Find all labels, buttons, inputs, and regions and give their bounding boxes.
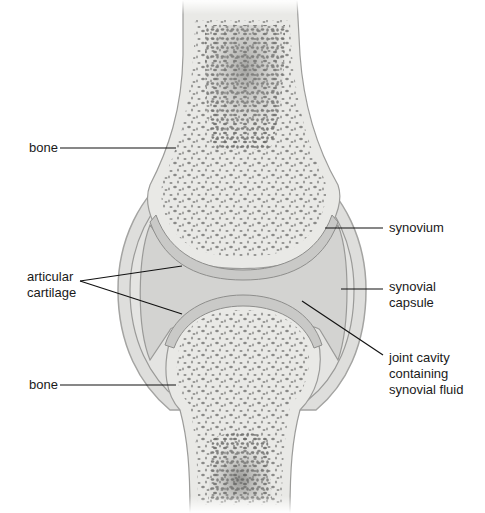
label-joint-cavity-line1: joint cavity xyxy=(389,350,463,366)
label-articular-cartilage: articular cartilage xyxy=(27,269,76,301)
label-synovial-capsule-line1: synovial xyxy=(389,279,436,295)
label-joint-cavity: joint cavity containing synovial fluid xyxy=(389,350,463,398)
label-joint-cavity-line3: synovial fluid xyxy=(389,382,463,398)
label-bone-bottom: bone xyxy=(29,377,58,393)
label-articular-cartilage-line1: articular xyxy=(27,269,76,285)
label-joint-cavity-line2: containing xyxy=(389,366,463,382)
synovial-joint-illustration xyxy=(0,0,485,513)
label-bone-top: bone xyxy=(29,140,58,156)
label-synovium: synovium xyxy=(389,220,444,236)
label-articular-cartilage-line2: cartilage xyxy=(27,285,76,301)
label-synovial-capsule: synovial capsule xyxy=(389,279,436,311)
top-fade xyxy=(150,0,330,120)
label-synovial-capsule-line2: capsule xyxy=(389,295,436,311)
bottom-fade xyxy=(150,400,330,513)
